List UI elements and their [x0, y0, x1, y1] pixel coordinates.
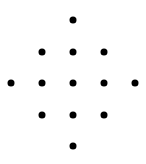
dot-r4-c0 [70, 143, 77, 150]
dot-r2-c3 [101, 80, 108, 87]
dot-diamond-diagram [0, 0, 146, 164]
dot-r3-c1 [70, 112, 77, 119]
dot-r2-c0 [8, 80, 15, 87]
dot-r1-c0 [39, 49, 46, 56]
dot-r3-c2 [101, 112, 108, 119]
dot-r3-c0 [39, 112, 46, 119]
dot-r1-c1 [70, 49, 77, 56]
dot-r0-c0 [70, 17, 77, 24]
dot-r2-c4 [132, 80, 139, 87]
dot-r1-c2 [101, 49, 108, 56]
dot-r2-c2 [70, 80, 77, 87]
dot-r2-c1 [39, 80, 46, 87]
